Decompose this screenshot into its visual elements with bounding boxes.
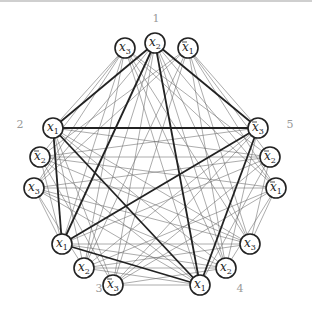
group-label: 1 bbox=[153, 12, 160, 25]
literal-node: x1 bbox=[52, 234, 72, 254]
edge bbox=[40, 157, 276, 188]
literal-node: x3 bbox=[248, 118, 268, 138]
edge bbox=[40, 157, 250, 244]
edge bbox=[188, 48, 270, 157]
edge bbox=[84, 188, 276, 268]
group-label: 3 bbox=[96, 282, 103, 295]
edge bbox=[53, 48, 125, 128]
edge bbox=[53, 128, 250, 244]
edge bbox=[125, 48, 276, 188]
literal-node: x2 bbox=[30, 147, 50, 167]
edge bbox=[62, 48, 125, 244]
literal-node: x1 bbox=[266, 178, 286, 198]
literal-node: x1 bbox=[178, 38, 198, 58]
literal-node: x2 bbox=[216, 258, 236, 278]
edge bbox=[226, 188, 276, 268]
clique-edge bbox=[53, 43, 155, 128]
edge bbox=[155, 43, 276, 188]
edge bbox=[250, 157, 270, 244]
edge bbox=[34, 43, 155, 188]
clique-edges bbox=[53, 43, 258, 285]
clique-edge bbox=[62, 128, 258, 244]
literal-node: x1 bbox=[43, 118, 63, 138]
group-label: 2 bbox=[17, 118, 24, 131]
literal-node: x2 bbox=[74, 258, 94, 278]
group-label: 5 bbox=[287, 118, 294, 131]
literal-node: x3 bbox=[240, 234, 260, 254]
edge bbox=[34, 188, 226, 268]
literal-node: x2 bbox=[145, 33, 165, 53]
literal-node: x3 bbox=[115, 38, 135, 58]
literal-node: x1 bbox=[190, 275, 210, 295]
clique-graph: 12345 x3x2x1x1x2x3x1x2x3x1x2x3x3x2x1 bbox=[0, 0, 312, 311]
group-label: 4 bbox=[237, 282, 244, 295]
edge bbox=[113, 48, 188, 285]
literal-node: x3 bbox=[103, 275, 123, 295]
edge bbox=[34, 48, 188, 188]
literal-node: x3 bbox=[24, 178, 44, 198]
edge bbox=[40, 128, 258, 157]
literal-node: x2 bbox=[260, 147, 280, 167]
